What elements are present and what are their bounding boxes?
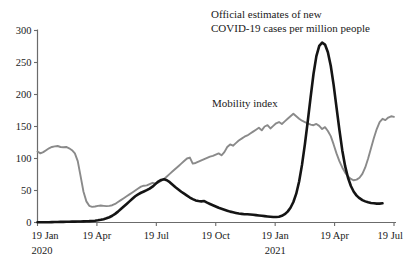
x-tick-label: 19 Apr bbox=[82, 230, 111, 241]
x-tick-year-label: 2020 bbox=[32, 245, 53, 256]
x-tick-label: 19 Jul bbox=[144, 230, 169, 241]
covid-mobility-chart: 050100150200250300 19 Jan202019 Apr19 Ju… bbox=[0, 0, 404, 261]
x-tick-year-label: 2021 bbox=[265, 245, 286, 256]
x-tick-label: 19 Oct bbox=[202, 230, 230, 241]
covid-series-label-line-1: Official estimates of new bbox=[211, 8, 322, 20]
mobility-series-label: Mobility index bbox=[212, 97, 278, 109]
y-tick-label: 200 bbox=[16, 89, 32, 100]
x-tick-label: 19 Jan bbox=[32, 230, 60, 241]
y-tick-label: 0 bbox=[26, 217, 31, 228]
x-tick-label: 19 Apr bbox=[320, 230, 349, 241]
chart-canvas: 050100150200250300 19 Jan202019 Apr19 Ju… bbox=[0, 0, 404, 261]
x-tick-label: 19 Jan bbox=[262, 230, 290, 241]
y-tick-label: 50 bbox=[21, 185, 32, 196]
y-tick-label: 150 bbox=[16, 121, 32, 132]
y-tick-label: 250 bbox=[16, 57, 32, 68]
mobility-series-label-line-1: Mobility index bbox=[212, 97, 278, 109]
y-tick-label: 100 bbox=[16, 153, 32, 164]
y-tick-label: 300 bbox=[16, 25, 32, 36]
x-tick-label: 19 Jul bbox=[378, 230, 403, 241]
covid-series-label-line-2: COVID-19 cases per million people bbox=[211, 22, 370, 34]
